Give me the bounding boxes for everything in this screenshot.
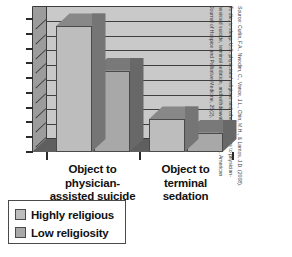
- chart-legend: Highly religious Low religiosity: [8, 200, 126, 244]
- y-axis-tick-mark: [26, 62, 33, 64]
- legend-label-low-religiosity: Low religiosity: [31, 227, 109, 239]
- y-axis-tick-mark: [26, 33, 33, 35]
- source-line-4: Journal of Hospice and Palliative Medici…: [207, 6, 216, 182]
- legend-swatch-highly-religious: [15, 209, 26, 220]
- bar-side-face: [92, 13, 106, 152]
- source-line-1: Source: Curlin, F.A., Nwodim, C., Vance,…: [235, 6, 244, 182]
- bar-side-face: [130, 58, 144, 152]
- y-axis-tick-mark: [26, 107, 33, 109]
- bar[interactable]: [56, 26, 92, 152]
- y-axis-tick-mark: [26, 18, 33, 20]
- y-axis-tick-mark: [26, 121, 33, 123]
- x-axis-category-label-line: sedation: [127, 190, 244, 204]
- x-axis-tick-mark: [46, 152, 48, 160]
- source-citation: Source: Curlin, F.A., Nwodim, C., Vance,…: [200, 6, 244, 182]
- y-axis-tick-mark: [26, 151, 33, 153]
- y-axis-tick-mark: [26, 77, 33, 79]
- legend-swatch-low-religiosity: [15, 227, 26, 238]
- figure: 9080706050403020100 Object tophysician-a…: [0, 0, 292, 257]
- source-line-2: To die, to sleep: U.S. physicians' relig…: [225, 6, 234, 182]
- legend-item-low-religiosity[interactable]: Low religiosity: [15, 225, 109, 240]
- bar[interactable]: [149, 119, 185, 152]
- y-axis-tick-mark: [26, 48, 33, 50]
- source-line-3: assisted suicide, terminal sedation, and…: [216, 6, 225, 182]
- y-axis-tick-mark: [26, 136, 33, 138]
- bar-front-face: [149, 119, 185, 152]
- legend-label-highly-religious: Highly religious: [31, 209, 114, 221]
- y-axis-tick-mark: [26, 92, 33, 94]
- x-axis-tick-mark: [139, 152, 141, 160]
- bar-front-face: [56, 26, 92, 152]
- legend-item-highly-religious[interactable]: Highly religious: [15, 207, 114, 222]
